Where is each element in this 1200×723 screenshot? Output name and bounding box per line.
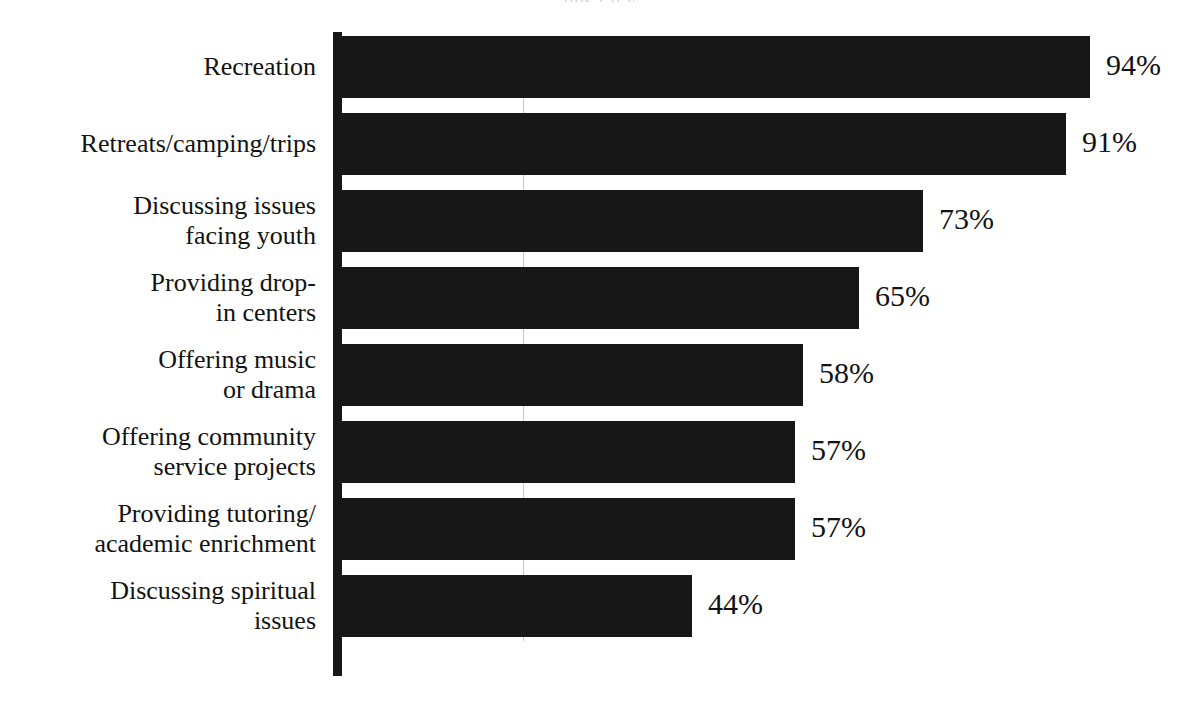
bar-band: Discussing spiritual issues44% <box>0 575 1200 637</box>
bar <box>341 113 1066 175</box>
bar <box>341 498 795 560</box>
bar-value-label: 73% <box>939 202 994 236</box>
bar-value-label: 57% <box>811 510 866 544</box>
bar-value-label: 91% <box>1082 125 1137 159</box>
category-label: Offering music or drama <box>0 345 316 405</box>
bar-band: Offering community service projects57% <box>0 421 1200 483</box>
category-label: Discussing issues facing youth <box>0 191 316 251</box>
bar-band: Providing tutoring/ academic enrichment5… <box>0 498 1200 560</box>
bar-band: Retreats/camping/trips91% <box>0 113 1200 175</box>
bar <box>341 344 803 406</box>
bar <box>341 421 795 483</box>
category-label: Offering community service projects <box>0 422 316 482</box>
bar <box>341 267 859 329</box>
bar <box>341 190 923 252</box>
bar-band: Discussing issues facing youth73% <box>0 190 1200 252</box>
category-label: Recreation <box>0 52 316 82</box>
bar-value-label: 65% <box>875 279 930 313</box>
bar-value-label: 57% <box>811 433 866 467</box>
category-label: Discussing spiritual issues <box>0 576 316 636</box>
bar <box>341 575 692 637</box>
bar-band: Providing drop- in centers65% <box>0 267 1200 329</box>
bar-band: Offering music or drama58% <box>0 344 1200 406</box>
category-label: Retreats/camping/trips <box>0 129 316 159</box>
category-label: Providing drop- in centers <box>0 268 316 328</box>
plot-area: Recreation94%Retreats/camping/trips91%Di… <box>0 0 1200 723</box>
bar <box>341 36 1090 98</box>
bar-value-label: 44% <box>708 587 763 621</box>
bar-value-label: 58% <box>819 356 874 390</box>
bar-band: Recreation94% <box>0 36 1200 98</box>
category-label: Providing tutoring/ academic enrichment <box>0 499 316 559</box>
bar-value-label: 94% <box>1106 48 1161 82</box>
bar-chart-figure: ngs t h y Recreation94%Retreats/camping/… <box>0 0 1200 723</box>
